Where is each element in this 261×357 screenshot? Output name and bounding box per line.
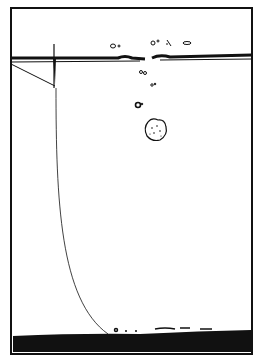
splash-bubbles bbox=[111, 40, 192, 48]
illustration bbox=[0, 0, 261, 357]
water-surface bbox=[11, 55, 252, 59]
bank-line bbox=[11, 64, 55, 86]
sediment-debris bbox=[115, 328, 213, 332]
rising-bubbles bbox=[136, 71, 156, 108]
sediment-layer bbox=[13, 330, 251, 352]
hanging-line bbox=[56, 88, 108, 334]
sinking-stone bbox=[145, 119, 166, 141]
